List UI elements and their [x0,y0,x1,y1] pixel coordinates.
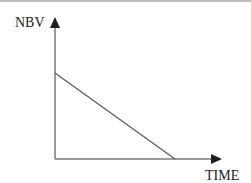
x-axis-label: TIME [205,169,239,183]
y-axis-label: NBV [15,16,45,30]
x-axis-arrow-icon [211,154,222,164]
y-axis-arrow-icon [50,17,60,28]
nbv-decline-line [55,73,175,159]
